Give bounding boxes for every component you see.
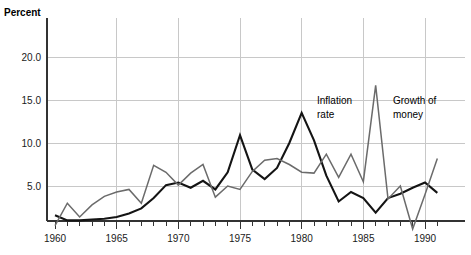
y-tick-label-0: 5.0: [27, 181, 41, 192]
x-axis-tick-labels: 1960196519701975198019851990: [44, 233, 437, 244]
x-tick-label-1970: 1970: [167, 233, 190, 244]
y-axis-tick-labels: 5.010.015.020.0: [22, 52, 42, 192]
y-axis-title: Percent: [4, 7, 41, 18]
annotation-inflation-rate-line2: rate: [317, 109, 335, 120]
annotation-growth-of-money-line1: Growth of: [393, 95, 437, 106]
x-tick-label-1980: 1980: [291, 233, 314, 244]
y-tick-label-2: 15.0: [22, 95, 42, 106]
chart-container: 5.010.015.020.0 196019651970197519801985…: [0, 0, 471, 255]
x-tick-label-1990: 1990: [414, 233, 437, 244]
x-tick-label-1975: 1975: [229, 233, 252, 244]
annotation-growth-of-money-line2: money: [393, 109, 423, 120]
y-tick-label-3: 20.0: [22, 52, 42, 63]
x-tick-label-1985: 1985: [352, 233, 375, 244]
y-tick-label-1: 10.0: [22, 138, 42, 149]
x-tick-label-1965: 1965: [106, 233, 129, 244]
x-axis-group: [47, 221, 465, 229]
data-series-group: [55, 85, 437, 229]
percent-line-chart: 5.010.015.020.0 196019651970197519801985…: [0, 0, 471, 255]
x-axis-tickmarks: [55, 221, 437, 229]
annotation-inflation-rate-line1: Inflation: [317, 95, 352, 106]
x-tick-label-1960: 1960: [44, 233, 67, 244]
